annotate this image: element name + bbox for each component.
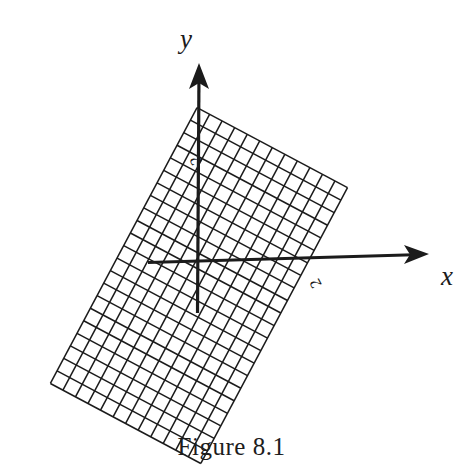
x-axis-tick-2: 2 xyxy=(306,276,325,291)
y-axis-line xyxy=(198,72,200,313)
lattice-line-u xyxy=(97,296,247,376)
lattice-line-u xyxy=(64,358,214,438)
figure-caption: Figure 8.1 xyxy=(0,433,475,461)
lattice-line-u xyxy=(164,170,314,250)
lattice-line-u xyxy=(70,346,220,426)
lattice-line-u xyxy=(130,233,280,313)
lattice-line-u xyxy=(144,208,294,288)
y-axis-label: y xyxy=(177,24,192,54)
figure-container: y x 22 Figure 8.1 xyxy=(0,0,475,471)
lattice-line-u xyxy=(117,258,267,338)
lattice-line-u xyxy=(197,108,347,188)
lattice-line-u xyxy=(170,158,320,238)
x-axis-label: x xyxy=(440,261,453,291)
coordinate-grid-figure: y x 22 xyxy=(0,0,475,471)
lattice-line-u xyxy=(184,133,334,213)
lattice-line-u xyxy=(104,283,254,363)
lattice-line-u xyxy=(157,183,307,263)
x-axis-line xyxy=(148,255,422,263)
lattice-line-u xyxy=(90,308,240,388)
lattice-line-u xyxy=(84,321,234,401)
lattice-line-u xyxy=(150,195,300,275)
lattice-line-u xyxy=(190,120,340,200)
lattice-line-u xyxy=(77,333,227,413)
lattice-line-u xyxy=(110,271,260,351)
